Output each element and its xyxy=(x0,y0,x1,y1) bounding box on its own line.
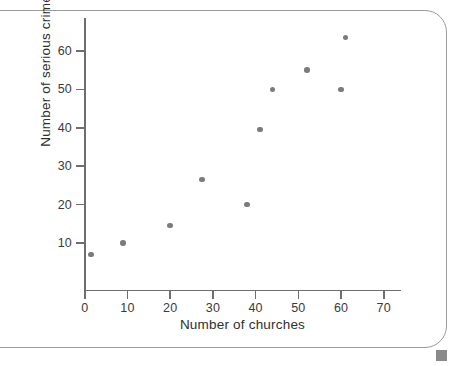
y-axis-tick xyxy=(76,89,84,91)
x-axis-tick-label: 10 xyxy=(120,301,134,315)
y-axis-tick-label: 30 xyxy=(40,159,72,173)
y-axis-label: Number of serious crimes xyxy=(38,0,53,158)
data-point xyxy=(88,252,94,258)
x-axis-tick xyxy=(212,291,214,299)
x-axis-tick-label: 70 xyxy=(377,301,391,315)
x-axis-tick xyxy=(84,291,86,299)
x-axis-tick xyxy=(127,291,129,299)
y-axis-tick xyxy=(76,127,84,129)
data-point xyxy=(338,87,344,93)
y-axis-tick-label: 20 xyxy=(40,198,72,212)
y-axis-tick xyxy=(76,50,84,52)
y-axis-tick xyxy=(76,242,84,244)
x-axis-line xyxy=(84,290,401,292)
data-point xyxy=(167,223,173,229)
y-axis-tick xyxy=(76,165,84,167)
data-point xyxy=(257,127,263,133)
y-axis-tick-label: 10 xyxy=(40,236,72,250)
plot-area: 010203040506070 102030405060 Number of c… xyxy=(0,0,468,366)
x-axis-tick xyxy=(255,291,257,299)
x-axis-label: Number of churches xyxy=(84,317,401,332)
x-axis-tick xyxy=(340,291,342,299)
y-axis-tick xyxy=(76,204,84,206)
y-axis-line xyxy=(84,18,86,291)
corner-marker xyxy=(436,350,447,361)
data-point xyxy=(270,87,276,93)
x-axis-tick-label: 20 xyxy=(163,301,177,315)
x-axis-tick xyxy=(383,291,385,299)
data-point xyxy=(304,67,310,73)
x-axis-tick-label: 40 xyxy=(248,301,262,315)
data-point xyxy=(120,240,126,246)
data-point xyxy=(244,202,250,208)
scatter-plot-figure: 010203040506070 102030405060 Number of c… xyxy=(0,0,468,366)
x-axis-tick-label: 50 xyxy=(291,301,305,315)
data-point xyxy=(199,177,205,183)
data-point xyxy=(343,35,349,41)
x-axis-tick xyxy=(169,291,171,299)
x-axis-tick-label: 60 xyxy=(334,301,348,315)
x-axis-tick-label: 0 xyxy=(81,301,88,315)
x-axis-tick xyxy=(298,291,300,299)
x-axis-tick-label: 30 xyxy=(206,301,220,315)
